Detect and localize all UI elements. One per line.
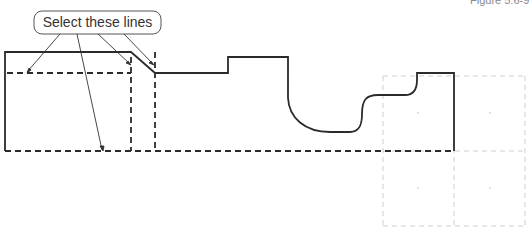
callout-label: Select these lines <box>34 11 161 34</box>
part-profile <box>5 52 454 151</box>
lathe-profile-diagram <box>0 0 532 228</box>
figure-caption: Figure 5.6-9 <box>470 0 529 6</box>
